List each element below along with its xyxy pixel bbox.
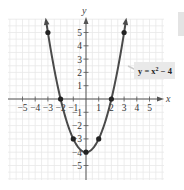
equation-tail: − 4 bbox=[159, 66, 173, 76]
equation-main: y = x bbox=[138, 66, 156, 76]
equation-label: y = x2 − 4 bbox=[128, 62, 175, 79]
y-axis-label: y bbox=[81, 5, 87, 16]
x-tick-label: −4 bbox=[30, 103, 40, 113]
data-point bbox=[122, 30, 127, 35]
x-tick-label: 3 bbox=[122, 103, 127, 113]
data-point bbox=[58, 96, 63, 101]
y-tick-label: 3 bbox=[77, 55, 82, 65]
y-tick-label: 4 bbox=[77, 41, 82, 51]
data-point bbox=[83, 150, 88, 155]
y-tick-label: 2 bbox=[77, 68, 82, 78]
x-tick-label: 1 bbox=[96, 103, 101, 113]
edge-panel bbox=[178, 12, 184, 36]
y-tick-label: 5 bbox=[77, 28, 82, 38]
data-point bbox=[96, 136, 101, 141]
data-point bbox=[45, 30, 50, 35]
x-tick-label: −3 bbox=[43, 103, 53, 113]
y-tick-label: −5 bbox=[72, 161, 82, 171]
parabola-graph: −5−4−3−2−11234554321−1−2−3−4−5 x y y = x… bbox=[0, 0, 184, 190]
y-tick-label: 1 bbox=[77, 81, 82, 91]
x-tick-label: −5 bbox=[17, 103, 27, 113]
equation-text: y = x2 − 4 bbox=[138, 66, 173, 77]
x-axis-arrow-icon bbox=[157, 97, 164, 102]
data-point bbox=[109, 96, 114, 101]
y-tick-label: −1 bbox=[72, 108, 82, 118]
y-axis-arrow-icon bbox=[84, 17, 89, 24]
x-tick-label: 5 bbox=[147, 103, 152, 113]
y-tick-label: −2 bbox=[72, 121, 82, 131]
x-axis-label: x bbox=[165, 93, 171, 104]
data-point bbox=[71, 136, 76, 141]
x-tick-label: 4 bbox=[134, 103, 139, 113]
